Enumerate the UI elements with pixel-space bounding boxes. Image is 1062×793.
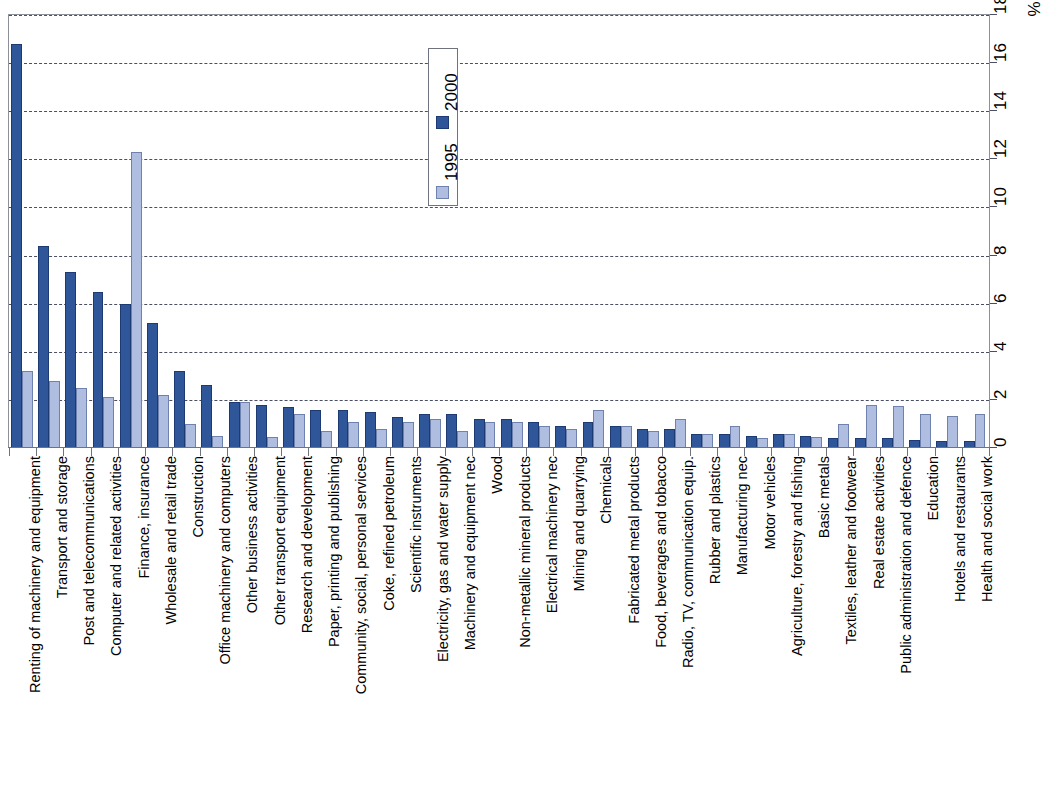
y-axis: % 024681012141618	[990, 0, 1062, 470]
x-axis-tick	[717, 448, 718, 456]
bar-1995	[294, 414, 305, 448]
bar-1995	[920, 414, 931, 448]
bar-1995	[457, 431, 468, 448]
bar-chart: % 024681012141618 20001995 Renting of ma…	[0, 0, 1062, 793]
bar-group	[63, 15, 90, 448]
bar-1995	[784, 434, 795, 448]
bar-1995	[621, 426, 632, 448]
x-axis-tick	[36, 448, 37, 456]
legend-label-1995: 1995	[443, 143, 460, 181]
bar-group	[826, 15, 853, 448]
x-axis-tick	[935, 448, 936, 456]
bar-2000	[65, 272, 76, 448]
category-label: Coke, refined petroleum	[382, 456, 397, 611]
x-axis-tick	[526, 448, 527, 456]
x-axis-tick	[662, 448, 663, 456]
category-label: Transport and storage	[55, 456, 70, 598]
y-axis-tick-label: 4	[992, 341, 1009, 350]
bar-2000	[11, 44, 22, 448]
category-label: Computer and related activities	[109, 456, 124, 656]
bar-2000	[93, 292, 104, 448]
category-label: Research and development	[300, 456, 315, 633]
x-axis-tick	[826, 448, 827, 456]
category-label: Motor vehicles	[763, 456, 778, 549]
legend-swatch-2000	[436, 116, 449, 129]
y-axis-tick	[990, 62, 997, 63]
category-label: Education	[926, 456, 941, 521]
bar-2000	[446, 414, 457, 448]
bar-group	[200, 15, 227, 448]
bar-2000	[474, 419, 485, 448]
bar-2000	[147, 323, 158, 448]
bar-group	[363, 15, 390, 448]
y-axis-tick	[990, 14, 997, 15]
bar-group	[308, 15, 335, 448]
y-axis-tick-label: 16	[992, 43, 1009, 62]
x-axis-tick	[417, 448, 418, 456]
bar-group	[336, 15, 363, 448]
bar-group	[499, 15, 526, 448]
bar-group	[91, 15, 118, 448]
bar-2000	[256, 405, 267, 448]
bar-1995	[131, 152, 142, 448]
category-label: Other transport equipment	[273, 456, 288, 625]
bar-group	[608, 15, 635, 448]
category-label: Public administration and defence	[899, 456, 914, 674]
x-axis-tick	[9, 448, 10, 456]
bar-2000	[392, 417, 403, 448]
x-axis-tick	[962, 448, 963, 456]
bar-1995	[403, 422, 414, 448]
bar-2000	[338, 410, 349, 448]
y-axis-tick	[990, 399, 997, 400]
bar-group	[798, 15, 825, 448]
bar-group	[744, 15, 771, 448]
x-axis-tick	[499, 448, 500, 456]
x-axis-tick	[880, 448, 881, 456]
x-axis-tick	[200, 448, 201, 456]
bar-2000	[555, 426, 566, 448]
y-axis-tick-label: 10	[992, 188, 1009, 207]
bar-1995	[158, 395, 169, 448]
bar-2000	[664, 429, 675, 448]
bar-group	[472, 15, 499, 448]
bar-group	[172, 15, 199, 448]
bar-group	[145, 15, 172, 448]
bar-2000	[38, 246, 49, 448]
category-label: Health and social work	[980, 456, 995, 602]
x-axis-tick	[472, 448, 473, 456]
legend-item: 2000	[429, 65, 459, 131]
bar-2000	[610, 426, 621, 448]
bar-1995	[566, 429, 577, 448]
x-axis-tick	[989, 448, 990, 456]
bar-group	[962, 15, 989, 448]
legend: 20001995	[428, 48, 458, 206]
category-label: Construction	[191, 456, 206, 537]
bar-group	[662, 15, 689, 448]
category-label: Office machinery and computers	[218, 456, 233, 664]
bar-2000	[283, 407, 294, 448]
bar-1995	[893, 406, 904, 448]
x-axis-tick	[608, 448, 609, 456]
category-label: Chemicals	[599, 456, 614, 524]
bar-group	[581, 15, 608, 448]
bar-2000	[120, 304, 131, 448]
bar-1995	[702, 434, 713, 448]
category-label: Agriculture, forestry and fishing	[790, 456, 805, 656]
bar-2000	[365, 412, 376, 448]
y-axis-tick	[990, 158, 997, 159]
bar-1995	[240, 402, 251, 448]
y-axis-tick-label: 2	[992, 389, 1009, 398]
bar-2000	[528, 422, 539, 448]
bar-group	[907, 15, 934, 448]
bar-group	[853, 15, 880, 448]
legend-label-2000: 2000	[443, 73, 460, 111]
bar-group	[36, 15, 63, 448]
bar-1995	[730, 426, 741, 448]
x-axis-tick	[445, 448, 446, 456]
x-axis-tick	[907, 448, 908, 456]
bar-2000	[419, 414, 430, 448]
bar-1995	[22, 371, 33, 448]
bar-group	[771, 15, 798, 448]
bars-layer	[9, 15, 989, 448]
bar-2000	[174, 371, 185, 448]
